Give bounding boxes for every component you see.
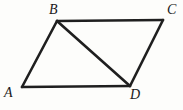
vertex-label-d: D [130, 88, 140, 102]
edge-BC [57, 20, 163, 21]
vertex-label-b: B [49, 3, 58, 17]
vertex-label-c: C [167, 3, 176, 17]
edge-BD-diagonal [57, 21, 130, 86]
parallelogram-diagram [0, 0, 183, 110]
edge-AB [22, 21, 57, 87]
edge-DA [22, 86, 130, 87]
edge-CD [130, 20, 163, 86]
geometry-figure: A B C D [0, 0, 183, 110]
vertex-label-a: A [4, 86, 13, 100]
